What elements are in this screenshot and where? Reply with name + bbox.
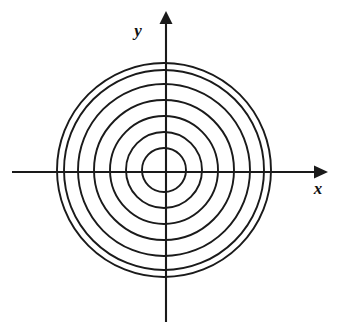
y-axis-label: y [132, 21, 142, 40]
circle-family [57, 63, 271, 277]
x-axis-arrow-icon [314, 166, 328, 179]
y-axis [160, 11, 173, 322]
x-axis-label: x [313, 179, 323, 198]
concentric-circles-diagram: y x [0, 0, 338, 334]
figure-canvas: y x [0, 0, 338, 334]
x-axis [12, 166, 328, 179]
level-circle-5 [78, 84, 250, 256]
level-circle-4 [94, 100, 234, 240]
level-circle-2 [126, 132, 202, 208]
level-circle-1 [142, 148, 186, 192]
y-axis-arrow-icon [160, 11, 173, 24]
level-circle-7 [57, 63, 271, 277]
